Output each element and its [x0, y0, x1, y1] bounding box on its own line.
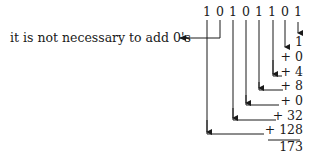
bit-0: 1	[293, 5, 303, 19]
bit-6: 0	[215, 5, 225, 19]
bit-3: 1	[254, 5, 264, 19]
addend-128: + 128	[265, 123, 303, 137]
note-label: it is not necessary to add 0's	[10, 31, 191, 45]
bit-2: 1	[267, 5, 277, 19]
addend-2: + 0	[281, 50, 303, 64]
addend-8: + 8	[281, 79, 303, 93]
addend-32: + 32	[273, 109, 303, 123]
addend-1: 1	[295, 35, 303, 49]
total: 173	[279, 140, 303, 154]
addend-4: + 4	[281, 65, 303, 79]
addend-16: + 0	[281, 94, 303, 108]
bit-5: 1	[228, 5, 238, 19]
bit-7: 1	[202, 5, 212, 19]
bit-4: 0	[241, 5, 251, 19]
bit-1: 0	[280, 5, 290, 19]
